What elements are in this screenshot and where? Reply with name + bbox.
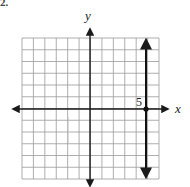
y-axis-label: y [83, 8, 91, 23]
coordinate-plane: y x 5 [0, 0, 190, 187]
x-axis-label: x [174, 101, 181, 116]
x-intercept-point [143, 106, 148, 111]
point-label-5: 5 [136, 95, 142, 109]
